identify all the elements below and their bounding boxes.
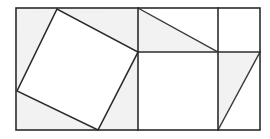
figure-container	[0, 0, 270, 139]
region-middle-lower-square	[138, 52, 218, 130]
region-top-right-square	[218, 8, 260, 52]
geometric-figure	[0, 0, 270, 139]
